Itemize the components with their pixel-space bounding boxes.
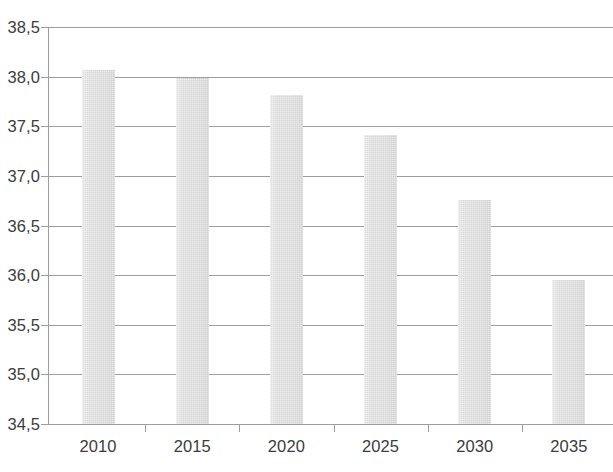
bar-2010 [82, 70, 115, 424]
y-axis-tick [41, 374, 49, 375]
y-axis-label: 34,5 [0, 416, 40, 433]
x-axis-label: 2010 [53, 437, 143, 455]
y-axis-label: 36,0 [0, 267, 40, 284]
y-axis-label: 38,0 [0, 69, 40, 86]
y-axis-tick [41, 325, 49, 326]
gridline [48, 27, 613, 28]
y-axis-tick [41, 226, 49, 227]
x-axis-label: 2035 [524, 437, 613, 455]
x-axis-tick [428, 424, 429, 432]
y-axis-label: 38,5 [0, 19, 40, 36]
chart-title-cropped [140, 0, 470, 3]
y-axis-tick [41, 27, 49, 28]
x-axis-label: 2030 [430, 437, 520, 455]
y-axis-tick [41, 176, 49, 177]
gridline [48, 77, 613, 78]
y-axis-tick [41, 77, 49, 78]
gridline [48, 275, 613, 276]
y-axis-label: 36,5 [0, 218, 40, 235]
gridline [48, 126, 613, 127]
gridline [48, 226, 613, 227]
y-axis-label: 37,5 [0, 118, 40, 135]
y-axis-label: 35,5 [0, 317, 40, 334]
y-axis-tick [41, 275, 49, 276]
bar-2030 [458, 200, 491, 424]
y-axis-label: 37,0 [0, 168, 40, 185]
gridline [48, 424, 613, 425]
bar-chart: 38,538,037,537,036,536,035,535,034,5 201… [0, 0, 613, 472]
bar-2025 [364, 135, 397, 424]
y-axis-tick [41, 126, 49, 127]
plot-area [48, 27, 613, 424]
x-axis-label: 2025 [336, 437, 426, 455]
x-axis-label: 2015 [147, 437, 237, 455]
y-axis-label: 35,0 [0, 366, 40, 383]
x-axis-tick [522, 424, 523, 432]
bar-2035 [552, 280, 585, 424]
y-axis-tick [41, 424, 49, 425]
x-axis-tick [239, 424, 240, 432]
gridline [48, 374, 613, 375]
bar-2020 [270, 95, 303, 424]
x-axis-tick [334, 424, 335, 432]
x-axis-label: 2020 [241, 437, 331, 455]
gridline [48, 176, 613, 177]
x-axis-tick [145, 424, 146, 432]
gridline [48, 325, 613, 326]
bar-2015 [176, 78, 209, 424]
